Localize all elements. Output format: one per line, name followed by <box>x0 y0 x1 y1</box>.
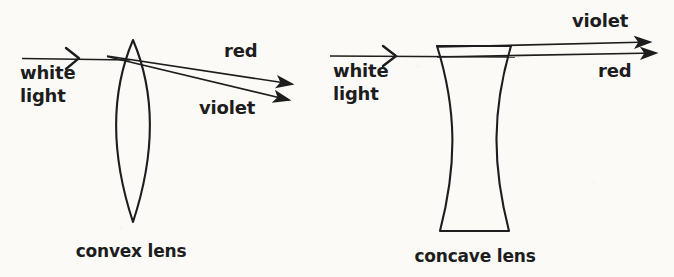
convex-lens-caption: convex lens <box>61 243 201 260</box>
concave-red-ray <box>437 53 656 57</box>
concave-lens-shape <box>437 46 511 231</box>
concave-white-light-label-line1: white <box>333 62 388 80</box>
concave-white-light-label-line2: light <box>333 85 379 103</box>
figure-canvas: white light red violet convex lens white… <box>0 0 674 277</box>
concave-violet-ray-label: violet <box>572 12 628 30</box>
convex-violet-ray <box>107 57 289 101</box>
convex-white-light-label-line2: light <box>20 87 66 105</box>
convex-lens-shape <box>116 40 149 222</box>
convex-red-ray <box>107 56 292 84</box>
optics-diagram-svg <box>0 0 674 277</box>
convex-red-ray-label: red <box>224 42 257 60</box>
convex-white-light-label-line1: white <box>20 64 75 82</box>
concave-violet-ray <box>437 42 650 47</box>
convex-violet-ray-label: violet <box>199 99 255 117</box>
concave-red-ray-label: red <box>598 62 631 80</box>
concave-lens-caption: concave lens <box>404 248 546 265</box>
